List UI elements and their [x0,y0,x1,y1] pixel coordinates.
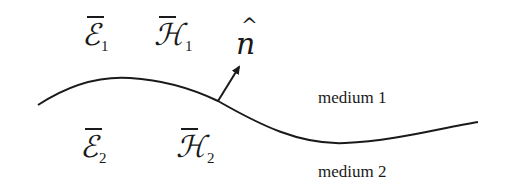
normal-vector-label: ^n [236,26,255,61]
overbar [159,16,176,18]
interface-diagram: ℰ1 ℋ1 ^n medium 1 ℰ2 ℋ2 medium 2 [0,0,507,193]
symbol-h: ℋ [176,129,206,164]
overbar [85,128,102,130]
symbol-h: ℋ [154,17,184,52]
medium-1-label: medium 1 [318,88,386,108]
electric-field-medium-1: ℰ1 [82,20,109,54]
normal-vector-arrow [218,67,239,101]
subscript: 1 [185,38,193,54]
magnetic-field-medium-2: ℋ2 [176,132,215,166]
subscript: 2 [207,150,215,166]
magnetic-field-medium-1: ℋ1 [154,20,193,54]
symbol-e: ℰ [80,129,98,164]
overbar [87,16,104,18]
hat-accent: ^ [241,13,258,37]
symbol-e: ℰ [82,17,100,52]
subscript: 1 [101,38,109,54]
subscript: 2 [99,150,107,166]
overbar [181,128,198,130]
medium-2-label: medium 2 [318,162,386,182]
electric-field-medium-2: ℰ2 [80,132,107,166]
